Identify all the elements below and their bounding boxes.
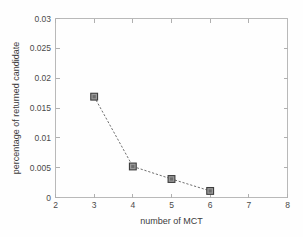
- y-tick-label-0005: 0.005: [30, 163, 52, 173]
- x-tick-label-5: 5: [169, 200, 174, 210]
- plot-frame: [56, 19, 288, 198]
- y-tick-label-003: 0.03: [34, 14, 51, 24]
- x-tick-label-6: 6: [208, 200, 213, 210]
- x-tick-label-2: 2: [53, 200, 58, 210]
- x-axis-title: number of MCT: [140, 216, 203, 226]
- x-tick-label-4: 4: [130, 200, 135, 210]
- x-tick-label-8: 8: [285, 200, 290, 210]
- x-axis-tick-labels: 2 3 4 5 6 7 8: [53, 200, 290, 210]
- data-point-marker-core: [93, 95, 96, 98]
- data-point-marker-core: [131, 165, 134, 168]
- y-tick-label-0: 0: [46, 193, 51, 203]
- data-point-marker-core: [209, 189, 212, 192]
- x-tick-label-3: 3: [92, 200, 97, 210]
- y-tick-label-0025: 0.025: [30, 43, 52, 53]
- y-tick-label-0015: 0.015: [30, 103, 52, 113]
- y-tick-label-002: 0.02: [34, 73, 51, 83]
- axes-border: [56, 19, 288, 198]
- data-series: [91, 93, 214, 194]
- x-tick-label-7: 7: [246, 200, 251, 210]
- data-point-marker-core: [170, 177, 173, 180]
- y-axis-ticks: [56, 19, 288, 198]
- x-axis-ticks: [56, 19, 288, 198]
- y-tick-label-001: 0.01: [34, 133, 51, 143]
- series-line-path: [94, 97, 210, 191]
- chart-figure: 2 3 4 5 6 7 8 0 0.005 0.01 0.015 0.02 0.…: [0, 0, 303, 237]
- y-axis-title: percentage of returned candidate: [11, 42, 21, 175]
- series-markers: [91, 93, 214, 194]
- line-chart: 2 3 4 5 6 7 8 0 0.005 0.01 0.015 0.02 0.…: [0, 0, 303, 237]
- y-axis-tick-labels: 0 0.005 0.01 0.015 0.02 0.025 0.03: [30, 14, 52, 203]
